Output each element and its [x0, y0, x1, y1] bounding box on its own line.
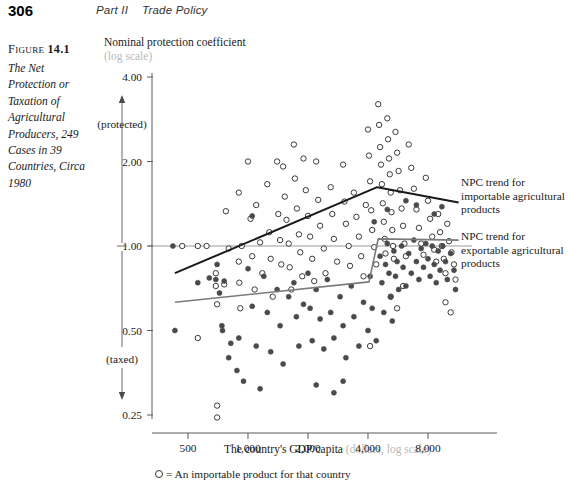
data-point-exportable — [351, 314, 356, 319]
data-point-exportable — [195, 280, 200, 285]
data-point-importable — [416, 225, 421, 230]
data-point-importable — [310, 256, 315, 261]
data-point-exportable — [406, 251, 411, 256]
data-point-exportable — [453, 287, 458, 292]
data-point-importable — [411, 186, 416, 191]
data-point-importable — [346, 243, 351, 248]
data-point-importable — [451, 262, 456, 267]
data-point-importable — [279, 262, 284, 267]
data-point-importable — [385, 137, 390, 142]
annotation-importable-trend: NPC trend for importable agricultural pr… — [461, 176, 569, 217]
data-point-importable — [369, 208, 374, 213]
data-point-importable — [425, 198, 430, 203]
data-point-exportable — [361, 300, 366, 305]
data-point-exportable — [328, 310, 333, 315]
data-point-exportable — [343, 355, 348, 360]
data-point-importable — [445, 221, 450, 226]
data-point-exportable — [426, 256, 431, 261]
data-point-exportable — [278, 323, 283, 328]
data-point-importable — [354, 214, 359, 219]
data-point-importable — [238, 306, 243, 311]
data-point-importable — [300, 274, 305, 279]
data-point-importable — [277, 237, 282, 242]
legend-text: = An importable product for that country — [166, 468, 351, 480]
data-point-exportable — [370, 306, 375, 311]
data-point-exportable — [172, 328, 177, 333]
data-point-exportable — [381, 310, 386, 315]
data-point-exportable — [338, 294, 343, 299]
data-point-importable — [252, 287, 257, 292]
data-point-importable — [292, 176, 297, 181]
data-point-importable — [390, 227, 395, 232]
data-point-importable — [406, 142, 411, 147]
data-point-importable — [317, 223, 322, 228]
data-point-importable — [328, 185, 333, 190]
data-point-importable — [287, 265, 292, 270]
data-point-importable — [307, 234, 312, 239]
data-point-exportable — [414, 203, 419, 208]
y-tick-label: 0.50 — [122, 325, 142, 337]
arrow-head-down-icon — [119, 392, 125, 400]
data-point-exportable — [385, 207, 390, 212]
data-point-exportable — [393, 274, 398, 279]
data-point-importable — [296, 232, 301, 237]
data-point-exportable — [246, 266, 251, 271]
data-point-exportable — [341, 379, 346, 384]
data-point-importable — [195, 335, 200, 340]
data-point-importable — [367, 179, 372, 184]
data-point-exportable — [306, 271, 311, 276]
data-point-exportable — [308, 306, 313, 311]
data-point-exportable — [321, 346, 326, 351]
data-point-exportable — [378, 254, 383, 259]
data-point-importable — [448, 310, 453, 315]
data-point-importable — [427, 216, 432, 221]
data-point-exportable — [207, 275, 212, 280]
data-point-importable — [363, 202, 368, 207]
data-point-exportable — [428, 274, 433, 279]
data-point-exportable — [226, 355, 231, 360]
data-point-exportable — [261, 274, 266, 279]
data-point-importable — [409, 165, 414, 170]
data-point-importable — [443, 300, 448, 305]
data-point-exportable — [419, 246, 424, 251]
data-point-importable — [303, 188, 308, 193]
data-point-exportable — [403, 284, 408, 289]
data-point-exportable — [374, 338, 379, 343]
data-point-importable — [399, 206, 404, 211]
data-point-importable — [284, 217, 289, 222]
data-point-exportable — [423, 241, 428, 246]
data-point-importable — [340, 162, 345, 167]
data-point-exportable — [241, 379, 246, 384]
data-point-importable — [370, 227, 375, 232]
data-point-exportable — [219, 323, 224, 328]
data-point-exportable — [372, 219, 377, 224]
data-point-importable — [270, 294, 275, 299]
data-point-importable — [387, 172, 392, 177]
data-point-exportable — [291, 280, 296, 285]
data-point-importable — [286, 241, 291, 246]
data-point-importable — [376, 122, 381, 127]
taxed-label: (taxed) — [106, 353, 138, 366]
data-point-importable — [390, 243, 395, 248]
data-point-exportable — [254, 344, 259, 349]
series-exportable — [170, 198, 458, 395]
data-point-exportable — [220, 328, 225, 333]
data-point-exportable — [215, 262, 220, 267]
data-point-importable — [351, 190, 356, 195]
data-point-importable — [316, 197, 321, 202]
data-point-exportable — [421, 265, 426, 270]
data-point-exportable — [250, 213, 255, 218]
data-point-importable — [254, 202, 259, 207]
data-point-importable — [376, 102, 381, 107]
data-point-exportable — [379, 280, 384, 285]
data-point-exportable — [436, 249, 441, 254]
data-point-exportable — [438, 268, 443, 273]
data-point-exportable — [258, 386, 263, 391]
data-point-exportable — [310, 338, 315, 343]
data-point-importable — [223, 209, 228, 214]
data-point-exportable — [399, 244, 404, 249]
data-point-importable — [236, 190, 241, 195]
data-point-importable — [236, 259, 241, 264]
data-point-importable — [347, 263, 352, 268]
data-point-exportable — [401, 265, 406, 270]
